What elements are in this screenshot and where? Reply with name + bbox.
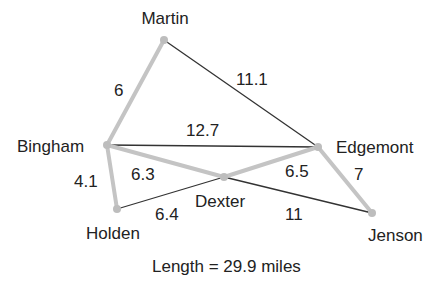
node-jenson <box>368 209 376 217</box>
edge-weight-label: 4.1 <box>74 172 98 191</box>
node-label-dexter: Dexter <box>195 192 245 211</box>
edge-weight-label: 6.4 <box>155 205 179 224</box>
node-label-holden: Holden <box>86 224 140 243</box>
edge-weight-label: 11 <box>285 205 303 224</box>
edge-bingham-dexter <box>107 145 224 177</box>
node-label-bingham: Bingham <box>17 137 84 156</box>
edge-bingham-holden <box>107 145 117 209</box>
node-label-edgemont: Edgemont <box>336 138 414 157</box>
edge-weight-label: 11.1 <box>236 70 268 89</box>
edge-weight-label: 12.7 <box>186 121 219 140</box>
node-bingham <box>103 141 111 149</box>
node-holden <box>113 205 121 213</box>
spanning-tree-diagram: 11.112.76.41166.36.574.1MartinBinghamEdg… <box>0 0 447 289</box>
node-label-martin: Martin <box>141 9 188 28</box>
caption: Length = 29.9 miles <box>152 257 301 277</box>
node-label-jenson: Jenson <box>368 226 423 245</box>
edge-bingham-edgemont <box>107 145 318 147</box>
edge-weight-label: 6 <box>114 81 123 100</box>
node-martin <box>160 36 168 44</box>
edge-weight-label: 6.5 <box>285 162 309 181</box>
node-dexter <box>220 173 228 181</box>
edge-weight-label: 7 <box>354 165 363 184</box>
edge-weight-label: 6.3 <box>131 165 155 184</box>
node-edgemont <box>314 143 322 151</box>
